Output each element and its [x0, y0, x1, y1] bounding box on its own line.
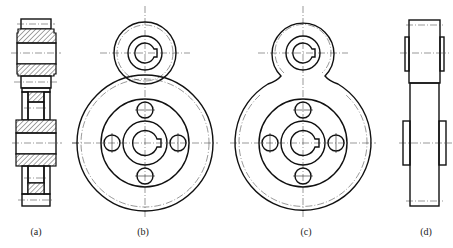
view-a-section — [11, 19, 80, 206]
small-gear-body — [409, 20, 440, 83]
view-b-label: (b) — [137, 226, 149, 237]
small-gear-hub-right — [440, 37, 444, 71]
large-gear-web-right-upper — [44, 92, 50, 120]
large-gear-lower-rim-section — [28, 183, 44, 194]
large-gear-body — [410, 83, 439, 206]
small-gear-hub-lower-section — [17, 64, 56, 76]
view-c-label: (c) — [300, 226, 311, 237]
view-a-label: (a) — [30, 226, 41, 237]
small-gear-hub-left — [405, 37, 409, 71]
large-gear-upper-rim-section — [28, 92, 44, 102]
technical-drawing — [0, 0, 453, 248]
view-d-label: (d) — [420, 226, 432, 237]
small-gear-bore — [17, 43, 56, 64]
large-gear-web-left-upper — [22, 92, 28, 120]
large-gear-web-left-lower — [22, 166, 28, 194]
large-gear-hub-upper-section — [16, 120, 56, 133]
large-gear-web-right-lower — [44, 166, 50, 194]
view-b-front — [72, 6, 218, 218]
view-d-side — [399, 20, 452, 206]
large-gear-bore — [16, 133, 56, 154]
large-gear-hub-lower-section — [16, 154, 56, 166]
small-gear-hub-upper-section — [17, 29, 56, 43]
view-c-front — [230, 6, 376, 218]
